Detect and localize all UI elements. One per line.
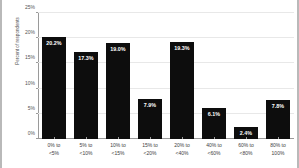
bar-value-label: 17.3% bbox=[70, 55, 102, 61]
y-tick-label: 15% bbox=[25, 54, 35, 60]
chart-title bbox=[2, 0, 299, 5]
bar[interactable] bbox=[42, 37, 65, 139]
bar-slot: 7.9% bbox=[134, 13, 166, 139]
bar-slot: 19.0% bbox=[102, 13, 134, 139]
bar-value-label: 6.1% bbox=[198, 111, 230, 117]
bar-slot: 2.4% bbox=[230, 13, 262, 139]
x-tick-mark bbox=[182, 137, 183, 139]
bar[interactable] bbox=[106, 43, 129, 139]
bar-slot: 17.3% bbox=[70, 13, 102, 139]
y-axis-label: Percent of respondents bbox=[13, 0, 23, 89]
x-tick-label: 10% to<15% bbox=[102, 142, 134, 157]
y-tick-label: 5% bbox=[28, 105, 35, 111]
y-tick-label: 10% bbox=[25, 80, 35, 86]
x-tick-mark bbox=[214, 137, 215, 139]
x-tick-label: 20% to<40% bbox=[166, 142, 198, 157]
bar-value-label: 7.8% bbox=[262, 103, 294, 109]
x-tick-label: 60% to<80% bbox=[230, 142, 262, 157]
bar-slot: 7.8% bbox=[262, 13, 294, 139]
bar-value-label: 2.4% bbox=[230, 130, 262, 136]
bar-value-label: 7.9% bbox=[134, 102, 166, 108]
x-tick-mark bbox=[86, 137, 87, 139]
x-tick-mark bbox=[246, 137, 247, 139]
bar[interactable] bbox=[170, 42, 193, 139]
x-tick-label: 0% to<5% bbox=[38, 142, 70, 157]
y-tick-label: 0% bbox=[28, 130, 35, 136]
y-tick-label: 25% bbox=[25, 4, 35, 10]
bar[interactable] bbox=[74, 52, 97, 139]
chart-figure: Percent of respondents 0%5%10%15%20%25% … bbox=[0, 0, 299, 168]
bar-value-label: 19.0% bbox=[102, 46, 134, 52]
x-tick-label: 80% to100% bbox=[262, 142, 294, 157]
x-tick-label: 40% to<60% bbox=[198, 142, 230, 157]
x-tick-mark bbox=[54, 137, 55, 139]
x-axis-labels: 0% to<5%5% to<10%10% to<15%15% to<20%20%… bbox=[38, 142, 294, 164]
x-tick-label: 5% to<10% bbox=[70, 142, 102, 157]
y-tick-label: 20% bbox=[25, 29, 35, 35]
plot-area: 0%5%10%15%20%25% 20.2%17.3%19.0%7.9%19.3… bbox=[38, 13, 294, 139]
bar-slot: 6.1% bbox=[198, 13, 230, 139]
bar-slot: 19.3% bbox=[166, 13, 198, 139]
x-tick-mark bbox=[118, 137, 119, 139]
x-tick-label: 15% to<20% bbox=[134, 142, 166, 157]
bar-value-label: 19.3% bbox=[166, 45, 198, 51]
bar-value-label: 20.2% bbox=[38, 40, 70, 46]
bar-slot: 20.2% bbox=[38, 13, 70, 139]
x-tick-mark bbox=[150, 137, 151, 139]
x-tick-mark bbox=[278, 137, 279, 139]
bar-series: 20.2%17.3%19.0%7.9%19.3%6.1%2.4%7.8% bbox=[38, 13, 294, 139]
